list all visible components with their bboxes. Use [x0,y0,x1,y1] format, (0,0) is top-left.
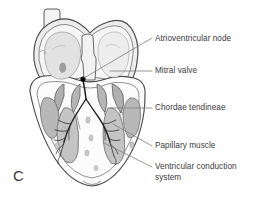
label-ventricular-conduction-system: Ventricular conduction system [155,162,259,183]
trabecula-nodule-3 [86,117,90,123]
label-atrioventricular-node: Atrioventricular node [155,34,231,45]
panel-letter: C [13,168,24,183]
trabecula-nodule-4 [89,135,93,141]
atrial-interior-group [40,32,129,80]
trabecula-nodule-2 [55,143,59,149]
heart-anatomy-figure: Atrioventricular node Mitral valve Chord… [0,0,263,204]
label-mitral-valve: Mitral valve [155,66,197,77]
trabecula-nodule-7 [94,165,98,170]
label-chordae-tendineae: Chordae tendineae [155,103,226,114]
trabecula-nodule-5 [85,150,89,156]
trabecula-nodule-6 [130,142,134,148]
trabecula-nodule-1 [62,127,66,134]
label-papillary-muscle: Papillary muscle [155,141,215,152]
